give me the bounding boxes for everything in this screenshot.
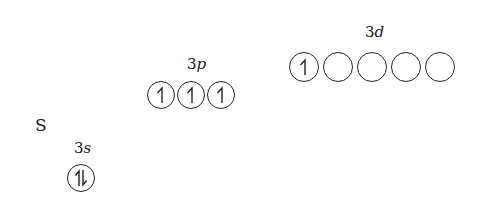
orbital-box-empty (357, 52, 387, 82)
subshell-label-3s: 3s (74, 141, 91, 156)
half-arrow-up-icon (183, 85, 199, 105)
orbital-row-3s (67, 164, 97, 192)
half-arrow-up-icon (153, 85, 169, 105)
orbital-box (67, 164, 95, 192)
orbital-box-empty (323, 52, 353, 82)
orbital-row-3p (147, 81, 237, 109)
atom-symbol: S (35, 117, 47, 134)
orbital-row-3d (289, 52, 459, 82)
subshell-label-3d: 3d (365, 25, 384, 40)
half-arrow-up-icon (296, 57, 312, 77)
orbital-box (207, 81, 235, 109)
orbital-box (147, 81, 175, 109)
subshell-label-3p: 3p (187, 57, 206, 72)
orbital-box-empty (391, 52, 421, 82)
half-arrow-up-icon (213, 85, 229, 105)
paired-arrows-icon (73, 168, 89, 188)
orbital-box (289, 52, 319, 82)
orbital-box (177, 81, 205, 109)
orbital-box-empty (425, 52, 455, 82)
